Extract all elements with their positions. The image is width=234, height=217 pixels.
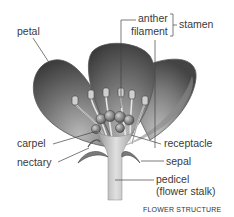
- label-filament: filament: [131, 26, 168, 37]
- label-anther: anther: [138, 13, 168, 24]
- label-nectary: nectary: [17, 157, 51, 168]
- sepal-left: [78, 151, 108, 163]
- label-sepal: sepal: [166, 156, 191, 167]
- label-petal: petal: [17, 26, 40, 37]
- label-pedicel-note: (flower stalk): [156, 186, 216, 197]
- receptacle: [98, 132, 134, 200]
- label-pedicel: pedicel: [156, 174, 189, 185]
- label-carpel: carpel: [17, 138, 46, 149]
- label-stamen: stamen: [179, 19, 213, 30]
- diagram-caption: FLOWER STRUCTURE: [143, 206, 221, 213]
- label-receptacle: receptacle: [164, 138, 212, 149]
- sepal-right: [122, 151, 140, 163]
